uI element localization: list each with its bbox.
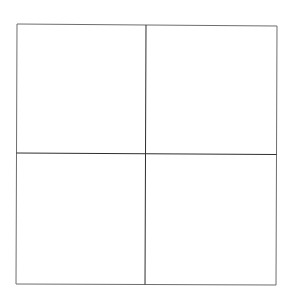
quadrant-grid-diagram [0, 0, 291, 303]
vertical-divider [145, 25, 146, 285]
grid-svg [0, 0, 291, 303]
horizontal-divider [17, 153, 277, 155]
